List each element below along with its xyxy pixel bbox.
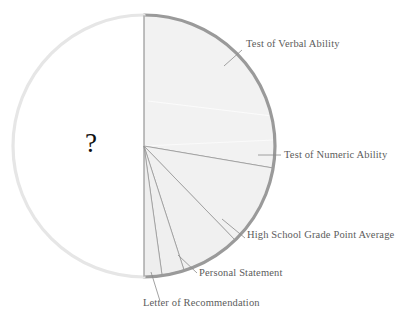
pie-label-letter-of-recommendation: Letter of Recommendation	[143, 298, 260, 309]
pie-chart-figure: ? Test of Verbal Ability Test of Numeric…	[0, 0, 400, 319]
pie-label-test-of-verbal-ability: Test of Verbal Ability	[246, 39, 340, 50]
pie-label-personal-statement: Personal Statement	[199, 268, 282, 279]
pie-label-test-of-numeric-ability: Test of Numeric Ability	[284, 150, 387, 161]
pie-label-high-school-grade-point-average: High School Grade Point Average	[247, 230, 394, 241]
unknown-slice-question-mark: ?	[85, 130, 97, 157]
